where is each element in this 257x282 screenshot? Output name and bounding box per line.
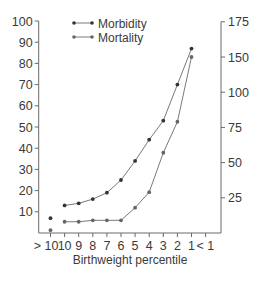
legend: Morbidity Mortality <box>72 17 146 45</box>
legend-entry-morbidity: Morbidity <box>72 17 146 31</box>
series-layer <box>49 47 194 232</box>
right-tick-label: 175 <box>228 15 249 29</box>
data-point-morbidity <box>49 216 53 220</box>
legend-label-mortality: Mortality <box>98 31 143 45</box>
left-tick-label: 100 <box>12 15 33 29</box>
left-tick-label: 50 <box>19 121 33 135</box>
data-point-morbidity <box>147 138 151 142</box>
x-tick-label: < 1 <box>197 239 215 253</box>
data-point-morbidity <box>133 159 137 163</box>
right-tick-label: 100 <box>228 86 249 100</box>
left-tick-label: 80 <box>19 57 33 71</box>
data-point-morbidity <box>105 191 109 195</box>
data-point-mortality <box>63 220 67 224</box>
right-tick-label: 25 <box>228 191 242 205</box>
legend-entry-mortality: Mortality <box>72 31 143 45</box>
data-point-morbidity <box>77 201 81 205</box>
series-line-mortality <box>65 57 192 222</box>
data-point-morbidity <box>190 47 194 51</box>
data-point-mortality <box>133 206 137 210</box>
x-tick-label: 3 <box>160 239 167 253</box>
chart: 102030405060708090100 255075100150175 > … <box>0 0 257 282</box>
left-tick-label: 30 <box>19 163 33 177</box>
x-tick-label: 9 <box>75 239 82 253</box>
legend-marker-mortality <box>90 35 94 39</box>
data-point-mortality <box>176 120 180 124</box>
data-point-morbidity <box>161 119 165 123</box>
left-tick-label: 90 <box>19 36 33 50</box>
right-axis-ticks: 255075100150175 <box>221 15 249 205</box>
x-tick-label: 2 <box>174 239 181 253</box>
left-tick-label: 10 <box>19 205 33 219</box>
right-tick-label: 150 <box>228 51 249 65</box>
data-point-morbidity <box>119 178 123 182</box>
x-tick-label: 5 <box>132 239 139 253</box>
x-axis-ticks: > 1010987654321< 1 <box>34 233 215 253</box>
data-point-mortality <box>77 220 81 224</box>
x-tick-label: 1 <box>188 239 195 253</box>
legend-marker-morbidity <box>72 21 76 25</box>
data-point-mortality <box>49 228 53 232</box>
data-point-mortality <box>147 190 151 194</box>
data-point-mortality <box>161 151 165 155</box>
x-axis-label: Birthweight percentile <box>73 253 188 267</box>
x-tick-label: 10 <box>58 239 72 253</box>
x-tick-label: 4 <box>146 239 153 253</box>
left-tick-label: 70 <box>19 78 33 92</box>
right-tick-label: 50 <box>228 156 242 170</box>
x-tick-label: > 10 <box>34 239 59 253</box>
data-point-mortality <box>91 218 95 222</box>
left-tick-label: 40 <box>19 142 33 156</box>
legend-marker-mortality <box>72 35 76 39</box>
data-point-mortality <box>190 55 194 59</box>
data-point-morbidity <box>91 197 95 201</box>
x-tick-label: 7 <box>103 239 110 253</box>
x-tick-label: 8 <box>89 239 96 253</box>
data-point-morbidity <box>63 204 67 208</box>
axes <box>39 21 221 233</box>
legend-marker-morbidity <box>90 21 94 25</box>
data-point-mortality <box>105 218 109 222</box>
data-point-morbidity <box>176 83 180 87</box>
data-point-mortality <box>119 218 123 222</box>
right-tick-label: 75 <box>228 121 242 135</box>
left-tick-label: 60 <box>19 99 33 113</box>
x-tick-label: 6 <box>118 239 125 253</box>
left-axis-ticks: 102030405060708090100 <box>12 15 39 220</box>
legend-label-morbidity: Morbidity <box>98 17 147 31</box>
left-tick-label: 20 <box>19 184 33 198</box>
series-line-morbidity <box>65 49 192 206</box>
